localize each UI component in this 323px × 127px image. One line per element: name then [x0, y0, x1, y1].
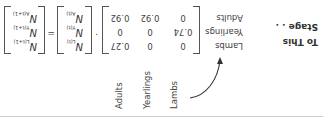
row-label-adults: Adults — [216, 13, 243, 23]
row-label-lambs: Lambs — [215, 41, 243, 51]
vector-t1-yearlings: NY(t+1) — [13, 25, 37, 38]
matrix-cell: 0.27 — [105, 41, 135, 51]
equals-operator: = — [47, 29, 55, 39]
vector-t-lambs: NL(t) — [67, 39, 83, 52]
matrix-cell: 0 — [105, 27, 135, 37]
vector-t1-right-bracket — [4, 6, 11, 54]
vector-t1-left-bracket — [38, 6, 45, 54]
matrix-cell: 0.92 — [105, 13, 135, 23]
vector-t-yearlings: NY(t) — [67, 25, 83, 38]
vector-t-adults: NA(t) — [66, 11, 83, 24]
row-label-yearlings: Yearlings — [205, 27, 243, 37]
column-label-yearlings: Yearlings — [142, 71, 152, 109]
vector-t1-adults: NA(t+1) — [13, 11, 37, 24]
diagram-canvas: To This Stage . . Lambs Yearlings Adults… — [0, 0, 323, 127]
heading-stage: Stage . . — [275, 22, 318, 32]
curved-arrow-icon — [183, 52, 228, 102]
divider-line — [0, 116, 323, 117]
matrix-cell: 0 — [135, 27, 165, 37]
column-label-adults: Adults — [114, 82, 124, 109]
column-label-lambs: Lambs — [169, 81, 179, 109]
vector-t-left-bracket — [85, 6, 92, 54]
matrix-cell: 0.74 — [168, 27, 198, 37]
matrix-cell: 0.92 — [135, 13, 165, 23]
multiply-operator: · — [95, 29, 98, 39]
vector-t1-lambs: NL(t+1) — [13, 39, 37, 52]
matrix-cell: 0 — [135, 41, 165, 51]
leslie-matrix-diagram: To This Stage . . Lambs Yearlings Adults… — [0, 0, 323, 127]
matrix-cell: 0 — [168, 41, 198, 51]
matrix-right-bracket — [102, 6, 109, 54]
vector-t-right-bracket — [57, 6, 64, 54]
heading-to-this: To This — [283, 37, 318, 47]
matrix-cell: 0 — [168, 13, 198, 23]
